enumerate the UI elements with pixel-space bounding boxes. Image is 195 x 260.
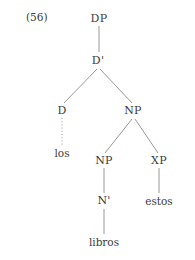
tree-node-libros: libros — [89, 237, 119, 248]
tree-edge-np_top-to-np_low — [105, 119, 132, 153]
tree-edge-dbar-to-np_top — [100, 69, 132, 103]
tree-node-nbar: N' — [97, 195, 110, 206]
tree-node-xp: XP — [151, 155, 167, 166]
tree-node-dp: DP — [91, 13, 108, 24]
tree-node-np_top: NP — [124, 105, 142, 116]
tree-node-estos: estos — [145, 196, 173, 207]
tree-node-np_low: NP — [95, 155, 113, 166]
tree-edges — [0, 0, 195, 260]
tree-node-los: los — [54, 148, 69, 159]
tree-edge-dbar-to-d — [64, 69, 97, 103]
tree-node-d: D — [57, 105, 66, 116]
tree-node-dbar: D' — [92, 55, 104, 66]
tree-edge-np_top-to-xp — [135, 119, 158, 153]
syntax-tree-figure: (56) DPD'DNPlosNPXPN'estoslibros — [0, 0, 195, 260]
